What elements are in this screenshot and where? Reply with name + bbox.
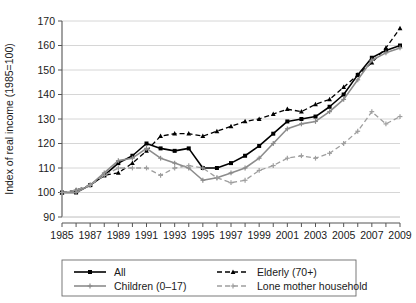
y-tick-label-120: 120 [37,137,55,149]
x-tick-label-2003: 2003 [304,229,328,241]
chart-figure: 9010011012013014015016017019851987198919… [0,0,416,303]
data-point [257,144,261,148]
data-point [243,119,248,124]
data-point [314,115,318,119]
legend: AllElderly (70+)Children (0–17)Lone moth… [62,260,367,296]
y-tick-label-170: 170 [37,15,55,27]
series-children-0-17 [60,46,403,195]
data-point [229,161,233,165]
data-point [159,146,163,150]
data-point [285,119,289,123]
data-point [158,134,163,139]
y-tick-label-130: 130 [37,113,55,125]
x-tick-label-1985: 1985 [50,229,74,241]
y-tick-label-100: 100 [37,186,55,198]
y-tick-label-150: 150 [37,64,55,76]
legend-label: All [114,266,126,278]
income-index-line-chart: 9010011012013014015016017019851987198919… [0,0,416,303]
x-tick-label-1995: 1995 [191,229,215,241]
y-tick-label-110: 110 [38,162,55,174]
data-point [229,124,234,129]
data-point [342,93,346,97]
legend-label: Children (0–17) [114,280,186,292]
data-point [328,105,332,109]
gridlines [62,21,400,217]
x-tick-label-1997: 1997 [219,229,243,241]
y-tick-label-160: 160 [37,39,55,51]
x-tick-label-1999: 1999 [247,229,271,241]
x-tick-label-1989: 1989 [107,229,131,241]
data-point [187,146,191,150]
x-tick-label-2007: 2007 [360,229,384,241]
y-axis: 90100110120130140150160170 [37,15,62,223]
data-point [327,97,332,102]
y-axis-title: Index of real income (1985=100) [3,43,15,194]
x-axis: 1985198719891991199319951997199920012003… [50,217,412,241]
legend-label: Lone mother household [257,280,367,292]
series-group [60,26,403,195]
data-point [173,149,177,153]
x-tick-label-2009: 2009 [388,229,412,241]
x-tick-label-1987: 1987 [78,229,102,241]
data-point [215,166,219,170]
y-tick-label-140: 140 [37,88,55,100]
data-point [299,117,303,121]
data-point [398,26,403,31]
x-tick-label-2001: 2001 [276,229,300,241]
data-point [271,132,275,136]
series-lone-mother-household [60,109,403,195]
data-point [243,154,247,158]
y-tick-label-90: 90 [43,211,55,223]
legend-label: Elderly (70+) [257,266,317,278]
x-tick-label-2005: 2005 [332,229,356,241]
x-tick-label-1993: 1993 [163,229,187,241]
x-tick-label-1991: 1991 [135,229,159,241]
legend-marker [88,270,92,274]
data-point [145,142,149,146]
